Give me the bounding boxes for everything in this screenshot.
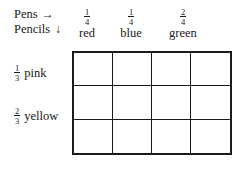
grid-cell[interactable] bbox=[191, 53, 230, 86]
fraction-glyph: 1 4 bbox=[128, 8, 134, 26]
fraction-numerator: 1 bbox=[14, 64, 20, 73]
grid-cell[interactable] bbox=[74, 120, 113, 153]
grid-cell[interactable] bbox=[152, 53, 191, 86]
column-header-green: 2 4 green bbox=[156, 6, 210, 40]
grid-cell[interactable] bbox=[113, 120, 152, 153]
grid-cell[interactable] bbox=[191, 86, 230, 119]
grid-cell[interactable] bbox=[152, 86, 191, 119]
fraction-denominator: 4 bbox=[180, 16, 186, 26]
fraction-glyph: 2 3 bbox=[14, 107, 20, 125]
row-header-pink: 1 3 pink bbox=[14, 66, 46, 80]
column-header-blue: 1 4 blue bbox=[114, 6, 148, 40]
down-arrow-icon: ↓ bbox=[55, 22, 61, 36]
grid-cell[interactable] bbox=[191, 120, 230, 153]
fraction-numerator: 1 bbox=[128, 8, 134, 17]
grid-cell[interactable] bbox=[113, 86, 152, 119]
grid-cell[interactable] bbox=[152, 120, 191, 153]
grid-cell[interactable] bbox=[74, 86, 113, 119]
area-model-grid bbox=[72, 51, 232, 155]
fraction-denominator: 3 bbox=[14, 72, 20, 82]
fraction-denominator: 4 bbox=[84, 16, 90, 26]
grid-cell[interactable] bbox=[74, 53, 113, 86]
column-color-label-red: red bbox=[72, 27, 102, 40]
axis-labels: Pens → Pencils ↓ bbox=[14, 7, 74, 37]
row-header-yellow: 2 3 yellow bbox=[14, 109, 58, 123]
column-color-label-blue: blue bbox=[114, 27, 148, 40]
column-header-red: 1 4 red bbox=[72, 6, 102, 40]
column-fraction-green: 2 4 bbox=[156, 6, 210, 26]
fraction-numerator: 2 bbox=[14, 107, 20, 116]
pens-axis-label: Pens → bbox=[14, 7, 74, 22]
row-color-label-yellow: yellow bbox=[24, 109, 58, 124]
column-fraction-blue: 1 4 bbox=[114, 6, 148, 26]
fraction-denominator: 3 bbox=[14, 115, 20, 125]
row-color-label-pink: pink bbox=[24, 66, 46, 81]
fraction-glyph: 1 3 bbox=[14, 64, 20, 82]
fraction-numerator: 2 bbox=[180, 8, 186, 17]
pencils-axis-label: Pencils ↓ bbox=[14, 22, 74, 37]
grid-cell[interactable] bbox=[113, 53, 152, 86]
right-arrow-icon: → bbox=[42, 7, 54, 21]
column-color-label-green: green bbox=[156, 27, 210, 40]
pens-label-text: Pens bbox=[14, 7, 38, 21]
fraction-glyph: 2 4 bbox=[180, 8, 186, 26]
fraction-denominator: 4 bbox=[128, 16, 134, 26]
column-fraction-red: 1 4 bbox=[72, 6, 102, 26]
pencils-label-text: Pencils bbox=[14, 22, 50, 36]
fraction-glyph: 1 4 bbox=[84, 8, 90, 26]
fraction-numerator: 1 bbox=[84, 8, 90, 17]
